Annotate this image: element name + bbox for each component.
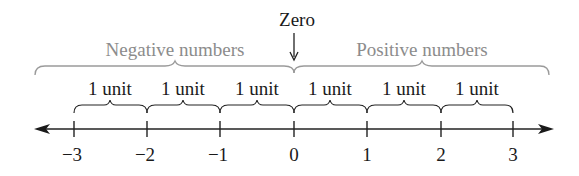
zero-pointer-arrow-icon (290, 33, 298, 60)
unit-label: 1 unit (455, 78, 500, 99)
unit-braces (74, 100, 513, 113)
tick-label: 3 (508, 144, 518, 165)
tick-label: 0 (289, 144, 299, 165)
tick-labels: −3 −2 −1 0 1 2 3 (62, 144, 518, 165)
number-line-diagram: Zero Negative numbers Positive numbers 1… (0, 0, 579, 176)
tick-label: −2 (135, 144, 155, 165)
unit-label: 1 unit (382, 78, 427, 99)
negative-numbers-brace (35, 61, 294, 75)
positive-numbers-label: Positive numbers (356, 39, 487, 60)
unit-brace (367, 100, 441, 113)
unit-label: 1 unit (235, 78, 280, 99)
zero-label: Zero (279, 9, 315, 30)
unit-label: 1 unit (308, 78, 353, 99)
unit-labels: 1 unit 1 unit 1 unit 1 unit 1 unit 1 uni… (88, 78, 500, 99)
tick-label: 1 (362, 144, 372, 165)
tick-label: −1 (208, 144, 228, 165)
unit-brace (74, 100, 147, 113)
unit-label: 1 unit (88, 78, 133, 99)
unit-brace (294, 100, 367, 113)
unit-brace (147, 100, 220, 113)
unit-brace (220, 100, 294, 113)
unit-brace (441, 100, 513, 113)
negative-numbers-label: Negative numbers (106, 39, 245, 60)
tick-label: 2 (436, 144, 446, 165)
positive-numbers-brace (294, 61, 549, 75)
tick-label: −3 (62, 144, 82, 165)
unit-label: 1 unit (161, 78, 206, 99)
